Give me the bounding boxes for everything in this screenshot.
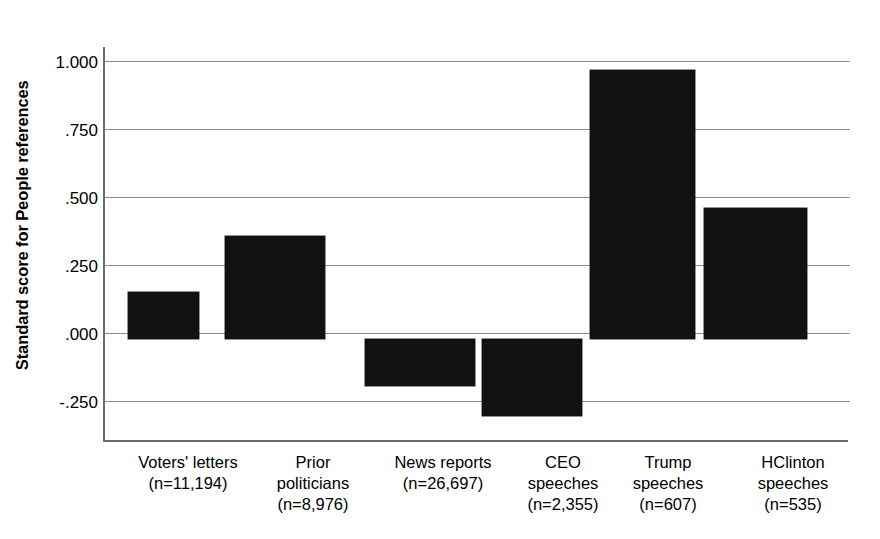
x-label-line: News reports (368, 452, 518, 473)
y-tick-label-0.750: .750 (65, 122, 98, 139)
x-label-news-reports: News reports(n=26,697) (368, 452, 518, 494)
x-label-line: (n=8,976) (248, 494, 378, 515)
x-label-line: HClinton (723, 452, 863, 473)
bar-prior-politicians (225, 236, 325, 339)
x-label-line: speeches (723, 473, 863, 494)
bar-voters-letters (128, 292, 199, 339)
x-axis-category-labels: Voters' letters(n=11,194) Priorpoliticia… (103, 452, 863, 538)
bar-hclinton-speeches (704, 208, 807, 339)
y-tick-label-0.500: .500 (65, 190, 98, 207)
bar-news-reports (365, 339, 475, 386)
bar-trump-speeches (590, 70, 695, 339)
x-label-line: (n=535) (723, 494, 863, 515)
y-tick-label-0.250: .250 (65, 258, 98, 275)
y-tick-label-1.000: 1.000 (55, 54, 98, 71)
y-tick-label-0.000: .000 (65, 326, 98, 343)
x-label-voters-letters: Voters' letters(n=11,194) (113, 452, 263, 494)
x-label-line: Prior (248, 452, 378, 473)
bar-chart-figure: Standard score for People references 1.0… (0, 0, 880, 539)
x-label-line: politicians (248, 473, 378, 494)
bars-layer (105, 47, 850, 442)
x-label-line: (n=11,194) (113, 473, 263, 494)
plot-area: 1.000 .750 .500 .250 .000 -.250 (103, 47, 848, 442)
x-label-line: Trump (603, 452, 733, 473)
x-label-line: speeches (603, 473, 733, 494)
x-label-line: (n=26,697) (368, 473, 518, 494)
x-label-line: (n=607) (603, 494, 733, 515)
x-label-prior-politicians: Priorpoliticians(n=8,976) (248, 452, 378, 514)
y-axis-title-text: Standard score for People references (14, 80, 31, 370)
x-label-line: Voters' letters (113, 452, 263, 473)
x-label-trump-speeches: Trumpspeeches(n=607) (603, 452, 733, 514)
bar-ceo-speeches (482, 339, 582, 416)
y-axis-title: Standard score for People references (0, 0, 44, 450)
y-tick-label--0.250: -.250 (59, 394, 98, 411)
x-label-hclinton-speeches: HClintonspeeches(n=535) (723, 452, 863, 514)
y-axis-title-emphasis: People (13, 167, 31, 221)
